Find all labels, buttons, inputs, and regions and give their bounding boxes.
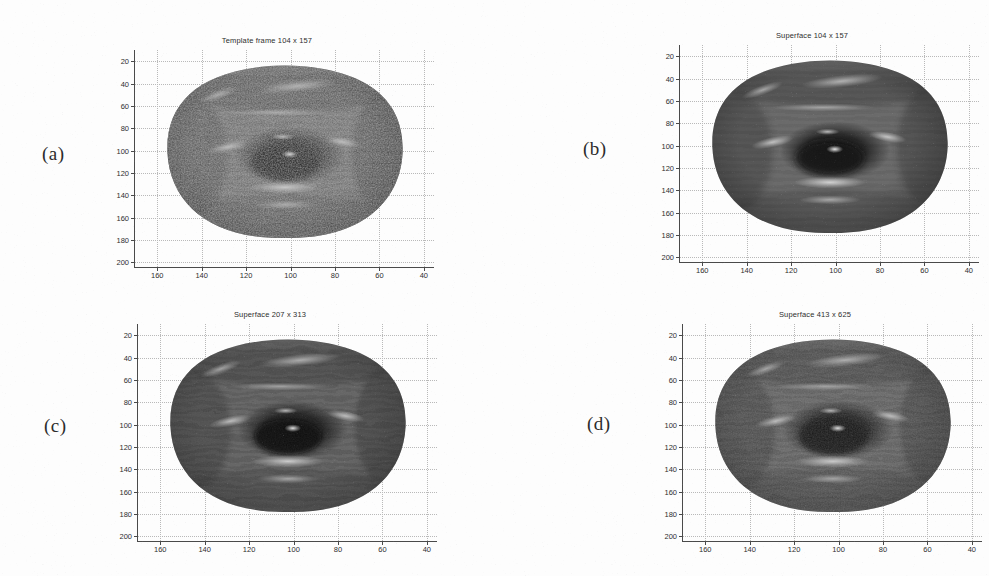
- y-tick-label: 140: [661, 186, 674, 195]
- y-tick-label: 80: [669, 398, 677, 407]
- plot-area-c: 2040608010012014016018020016014012010080…: [137, 324, 437, 542]
- x-tick-label: 140: [198, 545, 211, 554]
- plot-area-d: 2040608010012014016018020016014012010080…: [682, 324, 982, 542]
- panel-title-b: Superface 104 x 157: [645, 31, 979, 40]
- x-tick-label: 60: [378, 545, 386, 554]
- y-tick-label: 120: [119, 442, 132, 451]
- y-tick-label: 180: [119, 510, 132, 519]
- face-surface-render: [138, 324, 437, 541]
- y-tick-label: 20: [121, 57, 129, 66]
- figure-panel-d: Superface 413 x 625204060801001201401601…: [648, 310, 988, 568]
- x-tick-label: 80: [876, 266, 884, 275]
- panel-caption-c: (c): [44, 415, 67, 437]
- x-tick-label: 160: [151, 271, 164, 280]
- x-tick-label: 140: [743, 545, 756, 554]
- x-tick-label: 60: [923, 545, 931, 554]
- y-tick-label: 160: [661, 208, 674, 217]
- x-tick-label: 40: [420, 271, 428, 280]
- y-tick-label: 20: [666, 52, 674, 61]
- face-render-a: [135, 50, 434, 267]
- y-tick-label: 40: [669, 353, 677, 362]
- y-tick-label: 120: [664, 442, 677, 451]
- x-tick-label: 40: [965, 266, 973, 275]
- y-tick-label: 200: [116, 258, 129, 267]
- y-tick-label: 200: [661, 253, 674, 262]
- y-tick-label: 160: [116, 213, 129, 222]
- figure-panel-a: Template frame 104 x 1572040608010012014…: [100, 36, 440, 294]
- y-tick-label: 140: [116, 191, 129, 200]
- x-tick-label: 120: [788, 545, 801, 554]
- x-tick-label: 100: [287, 545, 300, 554]
- x-tick-label: 80: [334, 545, 342, 554]
- y-tick-label: 160: [119, 487, 132, 496]
- x-tick-label: 160: [699, 545, 712, 554]
- x-tick-label: 140: [740, 266, 753, 275]
- x-tick-label: 60: [375, 271, 383, 280]
- y-tick-label: 60: [124, 375, 132, 384]
- y-tick-label: 140: [119, 465, 132, 474]
- panel-caption-a: (a): [42, 143, 65, 165]
- panel-title-d: Superface 413 x 625: [648, 310, 982, 319]
- y-tick-label: 120: [661, 163, 674, 172]
- x-tick-label: 160: [154, 545, 167, 554]
- x-tick-label: 100: [829, 266, 842, 275]
- face-surface-render: [135, 50, 434, 267]
- x-tick-label: 100: [832, 545, 845, 554]
- panel-caption-d: (d): [587, 413, 611, 435]
- x-tick-label: 120: [785, 266, 798, 275]
- y-tick-label: 80: [666, 119, 674, 128]
- y-tick-label: 120: [116, 168, 129, 177]
- y-tick-label: 160: [664, 487, 677, 496]
- x-tick-label: 120: [240, 271, 253, 280]
- y-tick-label: 80: [124, 398, 132, 407]
- x-tick-label: 80: [879, 545, 887, 554]
- y-tick-label: 60: [666, 96, 674, 105]
- y-tick-label: 60: [121, 101, 129, 110]
- x-tick-label: 160: [696, 266, 709, 275]
- y-tick-label: 40: [666, 74, 674, 83]
- face-render-b: [680, 45, 979, 262]
- y-tick-label: 40: [124, 353, 132, 362]
- panel-caption-b: (b): [583, 138, 607, 160]
- panel-title-a: Template frame 104 x 157: [100, 36, 434, 45]
- y-tick-label: 140: [664, 465, 677, 474]
- figure-panel-b: Superface 104 x 157204060801001201401601…: [645, 31, 985, 289]
- y-tick-label: 180: [116, 236, 129, 245]
- x-tick-label: 40: [423, 545, 431, 554]
- x-tick-label: 100: [284, 271, 297, 280]
- y-tick-label: 100: [116, 146, 129, 155]
- y-tick-label: 60: [669, 375, 677, 384]
- y-tick-label: 40: [121, 79, 129, 88]
- x-tick-label: 80: [331, 271, 339, 280]
- figure-panel-c: Superface 207 x 313204060801001201401601…: [103, 310, 443, 568]
- y-tick-label: 180: [661, 231, 674, 240]
- y-tick-label: 180: [664, 510, 677, 519]
- y-tick-label: 80: [121, 124, 129, 133]
- y-tick-label: 200: [119, 532, 132, 541]
- y-tick-label: 100: [661, 141, 674, 150]
- y-tick-label: 100: [119, 420, 132, 429]
- face-render-d: [683, 324, 982, 541]
- x-tick-label: 40: [968, 545, 976, 554]
- panel-title-c: Superface 207 x 313: [103, 310, 437, 319]
- y-tick-label: 100: [664, 420, 677, 429]
- plot-area-b: 2040608010012014016018020016014012010080…: [679, 45, 979, 263]
- face-surface-render: [683, 324, 982, 541]
- face-surface-render: [680, 45, 979, 262]
- plot-area-a: 2040608010012014016018020016014012010080…: [134, 50, 434, 268]
- x-tick-label: 60: [920, 266, 928, 275]
- x-tick-label: 120: [243, 545, 256, 554]
- y-tick-label: 20: [669, 331, 677, 340]
- y-tick-label: 20: [124, 331, 132, 340]
- face-render-c: [138, 324, 437, 541]
- y-tick-label: 200: [664, 532, 677, 541]
- x-tick-label: 140: [195, 271, 208, 280]
